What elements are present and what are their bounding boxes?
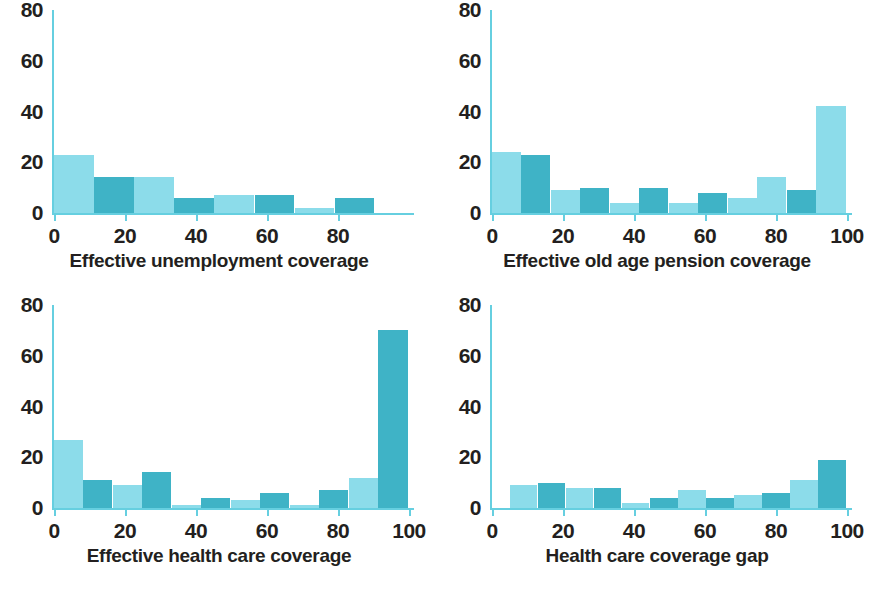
y-tick-label: 20 bbox=[21, 150, 43, 174]
histogram-bar bbox=[728, 198, 757, 213]
axis-title-3: Health care coverage gap bbox=[438, 545, 876, 567]
y-tick-label: 80 bbox=[21, 293, 43, 317]
x-tick-mark bbox=[196, 508, 198, 516]
x-tick-label: 40 bbox=[185, 519, 207, 543]
bars-container-1 bbox=[492, 10, 847, 213]
histogram-bar bbox=[174, 198, 214, 213]
histogram-bar bbox=[54, 155, 94, 213]
x-tick-label: 20 bbox=[114, 519, 136, 543]
y-tick-label: 80 bbox=[459, 0, 481, 22]
x-tick-mark bbox=[125, 508, 127, 516]
histogram-bar bbox=[610, 203, 639, 213]
x-tick-label: 0 bbox=[486, 519, 497, 543]
x-axis-line-1 bbox=[490, 213, 852, 215]
x-tick-mark bbox=[776, 508, 778, 516]
panel-effective-unemployment-coverage: 020406080 020406080 Effective unemployme… bbox=[0, 0, 438, 295]
histogram-bar bbox=[580, 188, 609, 213]
x-tick-mark bbox=[563, 213, 565, 221]
histogram-bar bbox=[94, 177, 134, 213]
panel-health-care-coverage-gap: 020406080 020406080100 Health care cover… bbox=[438, 295, 876, 590]
histogram-bar bbox=[134, 177, 174, 213]
histogram-bar bbox=[818, 460, 846, 508]
histogram-bar bbox=[734, 495, 762, 508]
histogram-bar bbox=[678, 490, 706, 508]
histogram-bar bbox=[492, 152, 521, 213]
x-axis-line-2 bbox=[52, 508, 414, 510]
y-tick-label: 40 bbox=[459, 100, 481, 124]
y-tick-label: 60 bbox=[459, 49, 481, 73]
x-tick-mark bbox=[705, 508, 707, 516]
x-tick-mark bbox=[267, 213, 269, 221]
x-tick-mark bbox=[409, 508, 411, 516]
x-axis-line-0 bbox=[52, 213, 414, 215]
axis-title-0: Effective unemployment coverage bbox=[0, 250, 438, 272]
y-tick-label: 0 bbox=[470, 496, 481, 520]
y-tick-label: 40 bbox=[21, 395, 43, 419]
bars-container-0 bbox=[54, 10, 409, 213]
histogram-figure: 020406080 020406080 Effective unemployme… bbox=[0, 0, 876, 590]
axis-title-1: Effective old age pension coverage bbox=[438, 250, 876, 272]
x-tick-label: 40 bbox=[623, 519, 645, 543]
histogram-bar bbox=[594, 488, 622, 508]
x-tick-label: 100 bbox=[830, 224, 864, 248]
y-tick-label: 80 bbox=[459, 293, 481, 317]
histogram-bar bbox=[290, 505, 319, 508]
x-tick-mark bbox=[492, 508, 494, 516]
plot-area-1: 020406080 020406080100 bbox=[490, 10, 850, 215]
x-tick-mark bbox=[776, 213, 778, 221]
x-tick-label: 80 bbox=[327, 224, 349, 248]
x-tick-label: 60 bbox=[256, 224, 278, 248]
histogram-bar bbox=[142, 472, 171, 508]
x-tick-mark bbox=[847, 213, 849, 221]
histogram-bar bbox=[510, 485, 538, 508]
x-tick-mark bbox=[338, 213, 340, 221]
histogram-bar bbox=[762, 493, 790, 508]
histogram-bar bbox=[790, 480, 818, 508]
panel-effective-health-care-coverage: 020406080 020406080100 Effective health … bbox=[0, 295, 438, 590]
x-tick-mark bbox=[54, 508, 56, 516]
bars-container-3 bbox=[492, 305, 847, 508]
x-tick-label: 60 bbox=[256, 519, 278, 543]
x-axis-line-3 bbox=[490, 508, 852, 510]
histogram-bar bbox=[260, 493, 289, 508]
x-tick-label: 100 bbox=[830, 519, 864, 543]
histogram-bar bbox=[521, 155, 550, 213]
x-tick-mark bbox=[634, 213, 636, 221]
histogram-bar bbox=[319, 490, 348, 508]
histogram-bar bbox=[201, 498, 230, 508]
y-tick-label: 60 bbox=[459, 344, 481, 368]
x-tick-mark bbox=[847, 508, 849, 516]
y-tick-label: 20 bbox=[21, 445, 43, 469]
x-tick-label: 40 bbox=[185, 224, 207, 248]
histogram-bar bbox=[669, 203, 698, 213]
histogram-bar bbox=[650, 498, 678, 508]
histogram-bar bbox=[295, 208, 335, 213]
x-tick-label: 60 bbox=[694, 519, 716, 543]
x-tick-label: 20 bbox=[552, 224, 574, 248]
x-tick-label: 0 bbox=[486, 224, 497, 248]
histogram-bar bbox=[538, 483, 566, 508]
y-tick-label: 0 bbox=[32, 496, 43, 520]
y-tick-label: 40 bbox=[21, 100, 43, 124]
x-tick-label: 0 bbox=[48, 519, 59, 543]
panel-effective-old-age-pension-coverage: 020406080 020406080100 Effective old age… bbox=[438, 0, 876, 295]
x-tick-label: 40 bbox=[623, 224, 645, 248]
x-tick-label: 80 bbox=[765, 224, 787, 248]
x-tick-label: 60 bbox=[694, 224, 716, 248]
y-tick-label: 60 bbox=[21, 344, 43, 368]
x-tick-mark bbox=[338, 508, 340, 516]
histogram-bar bbox=[231, 500, 260, 508]
y-tick-label: 60 bbox=[21, 49, 43, 73]
histogram-bar bbox=[255, 195, 295, 213]
histogram-bar bbox=[113, 485, 142, 508]
histogram-bar bbox=[816, 106, 846, 213]
plot-area-2: 020406080 020406080100 bbox=[52, 305, 412, 510]
plot-area-0: 020406080 020406080 bbox=[52, 10, 412, 215]
y-tick-label: 80 bbox=[21, 0, 43, 22]
histogram-bar bbox=[757, 177, 786, 213]
x-tick-label: 80 bbox=[765, 519, 787, 543]
x-tick-mark bbox=[125, 213, 127, 221]
y-tick-label: 20 bbox=[459, 445, 481, 469]
axis-title-2: Effective health care coverage bbox=[0, 545, 438, 567]
x-tick-label: 80 bbox=[327, 519, 349, 543]
